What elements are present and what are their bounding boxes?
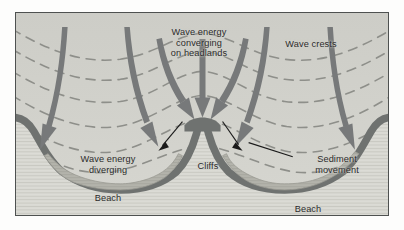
coastal-diagram-figure: Wave energy converging on headlands Wave…: [0, 0, 404, 230]
diagram-canvas: [16, 13, 388, 215]
diagram-frame: Wave energy converging on headlands Wave…: [15, 12, 389, 216]
